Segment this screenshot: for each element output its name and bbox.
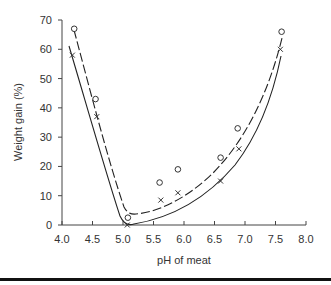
cross-marker — [278, 47, 283, 52]
circle-marker — [125, 215, 131, 221]
circle-marker — [93, 96, 99, 102]
y-tick-label: 40 — [40, 102, 52, 114]
x-tick-label: 7.5 — [268, 233, 283, 245]
cross-marker — [218, 179, 223, 184]
x-tick-label: 6.0 — [176, 233, 191, 245]
circle-marker — [71, 26, 77, 32]
dashed-fit-curve — [74, 30, 282, 214]
circle-marker — [235, 126, 241, 132]
y-tick-label: 30 — [40, 131, 52, 143]
x-axis: 4.04.55.05.56.06.57.07.58.0 — [54, 221, 313, 245]
circle-marker — [218, 155, 224, 161]
solid-fit-curve — [69, 46, 281, 225]
circle-marker — [279, 29, 285, 35]
circle-marker — [175, 167, 181, 173]
x-axis-title: pH of meat — [157, 254, 211, 266]
x-tick-label: 5.0 — [115, 233, 130, 245]
x-tick-label: 4.0 — [54, 233, 69, 245]
y-tick-label: 10 — [40, 190, 52, 202]
y-axis: 010203040506070 — [40, 14, 62, 231]
y-axis-title: Weight gain (%) — [12, 83, 24, 161]
x-tick-label: 4.5 — [85, 233, 100, 245]
cross-marker — [175, 190, 180, 195]
y-tick-label: 60 — [40, 43, 52, 55]
x-tick-label: 7.0 — [237, 233, 252, 245]
y-axis-ticks: 010203040506070 — [40, 14, 62, 231]
cross-marker — [236, 146, 241, 151]
y-tick-label: 20 — [40, 160, 52, 172]
data-markers — [70, 26, 285, 228]
x-tick-label: 8.0 — [298, 233, 313, 245]
y-tick-label: 50 — [40, 73, 52, 85]
x-tick-label: 6.5 — [207, 233, 222, 245]
y-tick-label: 0 — [46, 219, 52, 231]
x-tick-label: 5.5 — [146, 233, 161, 245]
bottom-rule-divider — [0, 278, 331, 281]
cross-marker — [158, 198, 163, 203]
weight-gain-vs-ph-chart: 010203040506070 4.04.55.05.56.06.57.07.5… — [0, 0, 331, 285]
y-tick-label: 70 — [40, 14, 52, 26]
circle-marker — [157, 180, 163, 186]
